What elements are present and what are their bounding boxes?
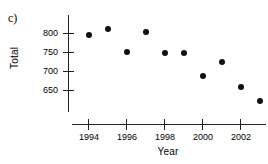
x-tick-label-2002: 2002 — [221, 133, 261, 142]
y-tick-label-700: 700 — [28, 67, 58, 76]
data-point — [238, 84, 244, 90]
data-point — [257, 98, 263, 104]
y-tick-label-650: 650 — [28, 86, 58, 95]
x-tick-label-2000: 2000 — [183, 133, 223, 142]
y-tick-label-800: 800 — [28, 29, 58, 38]
data-point — [105, 26, 111, 32]
x-tick-label-1996: 1996 — [107, 133, 147, 142]
data-point — [200, 73, 206, 79]
scatter-plot: 800 750 700 650 1994 1996 1998 2000 2002… — [0, 0, 268, 164]
data-point — [143, 29, 149, 35]
x-axis-title: Year — [68, 147, 268, 157]
data-point — [219, 59, 225, 65]
x-tick-label-1998: 1998 — [145, 133, 185, 142]
y-axis-title: Total — [10, 30, 20, 86]
data-point — [86, 32, 92, 38]
figure-panel-c: c) 800 750 700 650 1994 1996 1998 2000 2… — [0, 0, 268, 164]
data-point — [181, 50, 187, 56]
x-tick-label-1994: 1994 — [69, 133, 109, 142]
data-point — [162, 50, 168, 56]
data-point — [124, 49, 130, 55]
y-tick-label-750: 750 — [28, 48, 58, 57]
